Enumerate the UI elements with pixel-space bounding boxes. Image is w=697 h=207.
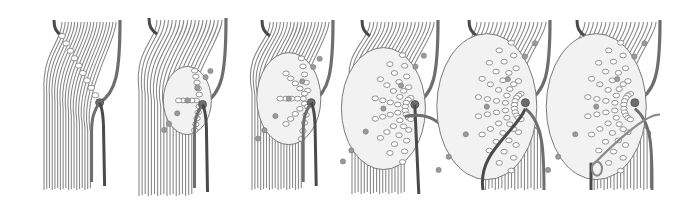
knot <box>300 64 306 69</box>
knot <box>484 97 490 102</box>
knot <box>390 124 396 129</box>
stage-figure-3 <box>250 20 333 190</box>
knot <box>617 40 623 45</box>
knot <box>387 151 393 156</box>
edge-knot <box>463 132 468 137</box>
working-cord <box>100 103 105 186</box>
knot <box>513 143 519 148</box>
knot <box>63 41 70 46</box>
knot <box>622 66 628 71</box>
edge-knot <box>632 54 637 59</box>
edge-knot <box>195 85 200 90</box>
edge-knot <box>300 79 305 84</box>
knot <box>501 149 507 154</box>
knot <box>504 115 510 120</box>
knot <box>283 71 289 76</box>
knot <box>594 97 600 102</box>
edge-knot <box>594 104 599 109</box>
knot <box>395 102 401 107</box>
edge-knot <box>286 96 291 101</box>
knot <box>403 74 409 79</box>
knot <box>196 92 202 97</box>
knot <box>287 76 293 81</box>
edge-knot <box>175 111 180 116</box>
edge-knot <box>208 68 213 73</box>
edge-knot <box>421 53 426 58</box>
knot <box>504 93 510 98</box>
knot <box>387 100 393 105</box>
knot <box>585 114 591 119</box>
knot <box>496 160 502 165</box>
knot <box>380 114 386 119</box>
knot <box>508 40 514 45</box>
knot <box>399 160 405 165</box>
knot <box>610 59 616 64</box>
knot <box>602 139 608 144</box>
knot <box>506 138 512 143</box>
knot <box>384 83 390 88</box>
knot <box>605 88 611 93</box>
knot <box>617 168 623 173</box>
knot <box>495 88 501 93</box>
knot <box>510 155 516 160</box>
edge-knot <box>615 76 620 81</box>
knot <box>502 100 508 105</box>
edge-knot <box>545 167 550 172</box>
knot <box>380 98 386 103</box>
knot <box>397 94 403 99</box>
edge-knot <box>185 98 190 103</box>
knot <box>597 82 603 87</box>
knot <box>627 117 633 122</box>
knot <box>75 63 82 68</box>
knot <box>475 114 481 119</box>
edge-knot <box>255 136 260 141</box>
knot <box>395 110 401 115</box>
knot <box>606 160 612 165</box>
knot <box>588 132 594 137</box>
knot <box>603 99 609 104</box>
knot <box>613 115 619 120</box>
knot <box>391 142 397 147</box>
knot <box>377 77 383 82</box>
knot <box>297 86 303 91</box>
knot <box>487 127 493 132</box>
knot <box>88 85 95 90</box>
edge-knot <box>273 113 278 118</box>
knot <box>397 118 403 123</box>
knot <box>495 121 501 126</box>
knot <box>390 89 396 94</box>
knot <box>301 91 307 96</box>
edge-knot <box>573 132 578 137</box>
knot <box>508 168 514 173</box>
knot <box>372 96 378 101</box>
knot <box>298 56 304 61</box>
knot <box>401 149 407 154</box>
edge-knot <box>381 106 386 111</box>
knot <box>301 72 307 77</box>
edge-knot <box>349 148 354 153</box>
edge-knot <box>413 64 418 69</box>
edge-knot <box>166 121 171 126</box>
knot <box>620 53 626 58</box>
knot <box>610 149 616 154</box>
knot <box>493 110 499 115</box>
knot <box>603 110 609 115</box>
knotting-stages-drawing <box>0 0 697 207</box>
junction-knot <box>521 99 529 107</box>
knot <box>67 48 74 53</box>
knot <box>620 155 626 160</box>
edge-knot <box>340 159 345 164</box>
knot <box>292 81 298 86</box>
knot <box>479 132 485 137</box>
edge-knot <box>162 127 167 132</box>
edge-knot <box>505 76 510 81</box>
knot <box>92 93 99 98</box>
knot <box>377 135 383 140</box>
knot <box>606 48 612 53</box>
macrame-illustration <box>0 0 697 207</box>
knot <box>479 76 485 81</box>
stage-figure-5 <box>436 20 550 190</box>
knot <box>403 138 409 143</box>
knot <box>401 63 407 68</box>
knot <box>408 117 414 122</box>
